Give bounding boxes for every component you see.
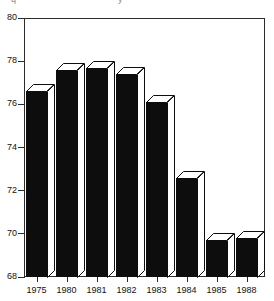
y-axis-tick bbox=[18, 61, 25, 62]
bar-front-face bbox=[176, 178, 197, 277]
y-axis-tick bbox=[18, 190, 25, 191]
bar-front-face bbox=[146, 102, 167, 277]
bar-front-face bbox=[206, 240, 227, 277]
bar-top-face bbox=[236, 231, 257, 238]
bar-side-face bbox=[77, 63, 84, 277]
bar-top-face bbox=[56, 63, 77, 70]
y-axis-label: 80 bbox=[0, 13, 17, 22]
y-axis-label: 72 bbox=[0, 186, 17, 195]
x-axis-tick bbox=[187, 277, 188, 282]
y-axis-label: 76 bbox=[0, 99, 17, 108]
x-axis-tick bbox=[97, 277, 98, 282]
x-axis-label: 1981 bbox=[80, 286, 114, 295]
bar-top-face bbox=[146, 95, 167, 102]
bar bbox=[86, 61, 107, 277]
bar-side-face bbox=[167, 95, 174, 277]
bar-front-face bbox=[56, 70, 77, 277]
x-axis-tick bbox=[217, 277, 218, 282]
x-axis-label: 1980 bbox=[50, 286, 84, 295]
x-axis-label: 1983 bbox=[140, 286, 174, 295]
bar-side-face bbox=[197, 171, 204, 277]
x-axis-label: 1975 bbox=[20, 286, 54, 295]
x-axis-label: 1984 bbox=[170, 286, 204, 295]
bar-side-face bbox=[257, 231, 264, 277]
x-axis-label: 1988 bbox=[230, 286, 264, 295]
bar-top-face bbox=[86, 61, 107, 68]
y-axis-label: 70 bbox=[0, 229, 17, 238]
x-axis-tick bbox=[247, 277, 248, 282]
bar bbox=[176, 171, 197, 277]
y-axis-tick bbox=[18, 104, 25, 105]
bar-top-face bbox=[206, 233, 227, 240]
y-axis-tick bbox=[18, 18, 25, 19]
bar-side-face bbox=[47, 84, 54, 277]
bar-front-face bbox=[26, 91, 47, 277]
x-axis-tick bbox=[127, 277, 128, 282]
title-fragment-right: y bbox=[118, 0, 123, 4]
x-axis-tick bbox=[157, 277, 158, 282]
y-axis-tick bbox=[18, 147, 25, 148]
bar-top-face bbox=[176, 171, 197, 178]
bar bbox=[56, 63, 77, 277]
bar bbox=[26, 84, 47, 277]
bar bbox=[206, 233, 227, 277]
clipped-title-fragment: q y bbox=[0, 0, 274, 4]
x-axis-label: 1985 bbox=[200, 286, 234, 295]
bar-chart: q y 80787674727068 197519801981198219831… bbox=[0, 0, 274, 301]
x-axis-tick bbox=[37, 277, 38, 282]
x-axis-tick bbox=[67, 277, 68, 282]
y-axis-label: 78 bbox=[0, 56, 17, 65]
bar-side-face bbox=[227, 233, 234, 277]
x-axis-label: 1982 bbox=[110, 286, 144, 295]
y-axis-tick bbox=[18, 277, 25, 278]
bar-top-face bbox=[116, 67, 137, 74]
bar bbox=[146, 95, 167, 277]
bar-top-face bbox=[26, 84, 47, 91]
bar-side-face bbox=[137, 67, 144, 277]
bar bbox=[236, 231, 257, 277]
y-axis-label: 74 bbox=[0, 143, 17, 152]
bar-side-face bbox=[107, 61, 114, 277]
bar-front-face bbox=[116, 74, 137, 277]
y-axis-label: 68 bbox=[0, 272, 17, 281]
bar-front-face bbox=[236, 238, 257, 277]
title-fragment-left: q bbox=[11, 0, 17, 4]
y-axis-tick bbox=[18, 233, 25, 234]
bar-front-face bbox=[86, 68, 107, 277]
bar bbox=[116, 67, 137, 277]
